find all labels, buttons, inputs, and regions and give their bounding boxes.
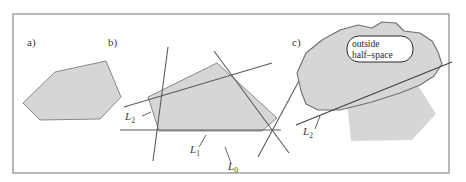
panel-b-label: b) bbox=[108, 36, 118, 49]
panel-c-callout-line-1: outside bbox=[352, 39, 379, 49]
panel-a-label: a) bbox=[27, 36, 36, 49]
panel-c-label: c) bbox=[292, 36, 301, 49]
panel-c-callout-line-2: half–space bbox=[352, 50, 393, 60]
geometry-figure: a) L2 L1 L0 b) outside half–space bbox=[0, 0, 466, 182]
figure-container: a) L2 L1 L0 b) outside half–space bbox=[0, 0, 466, 182]
